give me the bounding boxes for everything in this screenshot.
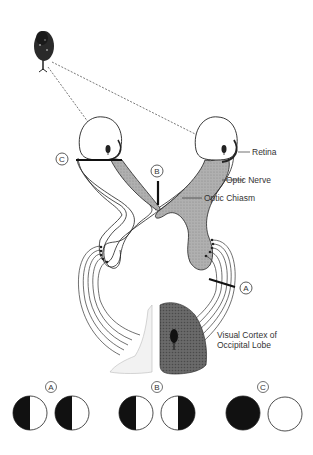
visual-cortex-label-line1: Visual Cortex of — [217, 330, 277, 340]
field-b-right-eye — [161, 396, 195, 430]
field-a-label: A — [48, 383, 54, 392]
visual-cortex-label-line2: Occipital Lobe — [217, 340, 271, 350]
shaded-pathway-left — [110, 158, 160, 211]
field-b-label: B — [154, 383, 159, 392]
optic-chiasm-label: Optic Chiasm — [204, 193, 255, 203]
field-a-right-eye — [55, 396, 89, 430]
visual-pathway-diagram: C B A Retina Optic Nerve Optic Chiasm Vi… — [0, 0, 313, 455]
left-eye — [79, 117, 121, 160]
field-c-label: C — [260, 383, 266, 392]
right-eye — [195, 117, 237, 162]
shaded-pathway-right — [155, 150, 229, 270]
left-optic-radiations — [78, 246, 140, 355]
optic-nerve-label: Optic Nerve — [226, 175, 271, 185]
field-b-left-eye — [119, 396, 153, 430]
retina-label: Retina — [252, 147, 277, 157]
field-c-right-eye — [268, 397, 302, 431]
tree-icon — [34, 31, 54, 72]
lesion-a-label: A — [243, 284, 249, 293]
lesion-c-label: C — [59, 155, 65, 164]
field-c-left-eye — [226, 396, 260, 430]
lesion-b-label: B — [154, 167, 159, 176]
field-a-left-eye — [13, 396, 47, 430]
visual-cortex-right-hemisphere — [160, 303, 207, 374]
